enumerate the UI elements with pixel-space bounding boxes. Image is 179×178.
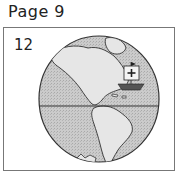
illustration-panel: 12 (3, 27, 175, 171)
page-title: Page 9 (8, 2, 65, 21)
globe-illustration (36, 32, 162, 166)
panel-number: 12 (14, 36, 33, 54)
antarctica (66, 154, 96, 166)
